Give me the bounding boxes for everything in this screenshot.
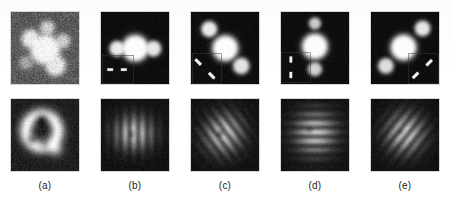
figure-column: (d) (270, 0, 360, 204)
diffraction-pattern-a (11, 99, 79, 171)
panel-label-a: (a) (0, 180, 90, 191)
figure-column: (c) (180, 0, 270, 204)
object-image-c (191, 12, 259, 84)
panel-label-c: (c) (180, 180, 270, 191)
object-image-e (371, 12, 439, 84)
object-image-d (281, 12, 349, 84)
figure-column: (a) (0, 0, 90, 204)
figure-column: (e) (360, 0, 450, 204)
diffraction-pattern-e (371, 99, 439, 171)
panel-label-b: (b) (90, 180, 180, 191)
figure-column: (b) (90, 0, 180, 204)
diffraction-pattern-b (101, 99, 169, 171)
panel-label-d: (d) (270, 180, 360, 191)
figure-root: (a) (b) (c) (d) (e) (0, 0, 451, 204)
object-image-a (11, 12, 79, 84)
diffraction-pattern-c (191, 99, 259, 171)
diffraction-pattern-d (281, 99, 349, 171)
object-image-b (101, 12, 169, 84)
panel-label-e: (e) (360, 180, 450, 191)
